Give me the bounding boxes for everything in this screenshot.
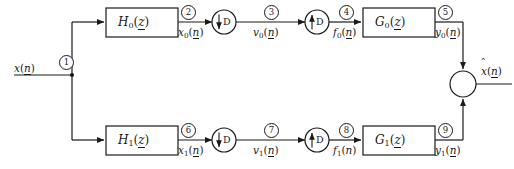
signal-label-y1: y1(n) xyxy=(435,145,461,157)
signal-label-y0: y0(n) xyxy=(435,27,461,39)
input-signal-label: x(n) xyxy=(14,63,35,74)
node-marker-6: 6 xyxy=(181,123,196,138)
node-marker-7: 7 xyxy=(264,123,279,138)
node-marker-8: 8 xyxy=(339,123,354,138)
downsampler-1-factor: D xyxy=(223,135,231,145)
signal-label-x1: x1(n) xyxy=(178,145,203,157)
signal-label-v0: v0(n) xyxy=(253,27,279,39)
node-marker-4: 4 xyxy=(339,5,354,20)
upsampler-1-factor: D xyxy=(316,135,324,145)
signal-label-f1: f1(n) xyxy=(333,145,356,157)
node-marker-2: 2 xyxy=(181,5,196,20)
summing-junction xyxy=(450,71,476,97)
output-signal-label: x(n) xyxy=(481,66,502,77)
block-label-g0: G0(z) xyxy=(375,16,405,30)
split-node-dot xyxy=(70,73,74,77)
downsampler-0-factor: D xyxy=(223,17,231,27)
upsampler-0-factor: D xyxy=(316,17,324,27)
block-label-h0: H0(z) xyxy=(118,16,149,30)
node-marker-3: 3 xyxy=(264,5,279,20)
signal-label-v1: v1(n) xyxy=(253,145,279,157)
signal-label-f0: f0(n) xyxy=(333,27,356,39)
signal-label-x0: x0(n) xyxy=(178,27,203,39)
block-label-h1: H1(z) xyxy=(118,134,149,148)
block-label-g1: G1(z) xyxy=(375,134,405,148)
node-marker-5: 5 xyxy=(438,5,453,20)
node-marker-9: 9 xyxy=(438,123,453,138)
node-marker-1: 1 xyxy=(59,55,74,70)
